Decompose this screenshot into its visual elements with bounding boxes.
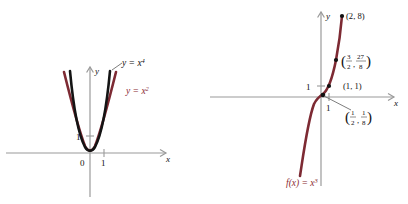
right-x-axis-label: x: [393, 98, 398, 108]
left-origin-label: 0: [80, 158, 85, 168]
figure-right-cubic-function: y x 1 1 (2, 8) (1, 1) ( 3 2 , 27 8 ) ( 1…: [204, 0, 408, 204]
left-leader-line-x4: [112, 63, 122, 70]
point-marker-1-1: [327, 84, 331, 88]
left-x-axis: [6, 150, 166, 157]
right-caption-exponent: 3: [314, 177, 319, 184]
left-label-x2-text: y = x: [125, 86, 146, 96]
right-caption: f(x) = x3: [286, 177, 319, 190]
left-y-axis: [87, 67, 94, 197]
right-y-tick-label-1: 1: [306, 82, 311, 92]
frac2-y-den-8: 8: [362, 119, 366, 127]
left-y-axis-label: y: [94, 66, 99, 76]
svg-text:f(x) = x3: f(x) = x3: [286, 177, 319, 190]
point-label-1-1: (1, 1): [343, 81, 362, 91]
point-marker-2-8: [340, 14, 344, 18]
svg-text:,: ,: [357, 115, 359, 125]
frac2-y-num-1: 1: [362, 109, 366, 117]
frac-x-den-2: 2: [347, 63, 351, 71]
svg-text:(: (: [341, 53, 346, 70]
left-x-tick-label-1: 1: [101, 158, 106, 168]
right-chart-svg: y x 1 1 (2, 8) (1, 1) ( 3 2 , 27 8 ) ( 1…: [204, 0, 408, 204]
right-y-axis-label: y: [325, 11, 330, 21]
svg-text:,: ,: [353, 59, 355, 69]
svg-text:y = x4: y = x4: [121, 57, 146, 69]
left-label-x4-exponent: 4: [142, 57, 146, 64]
frac2-x-den-2: 2: [351, 119, 355, 127]
left-chart-svg: y x 1 0 1 y = x4 y = x2: [0, 0, 204, 204]
svg-text:(: (: [345, 109, 350, 126]
point-marker-3-2-27-8: [334, 58, 338, 62]
left-series-label-x2: y = x2: [125, 85, 150, 97]
svg-text:): ): [366, 53, 371, 70]
point-label-1-2-1-8: ( 1 2 , 1 8 ): [345, 109, 372, 127]
svg-text:): ): [367, 109, 372, 126]
left-series-label-x4: y = x4: [121, 57, 146, 69]
point-label-2-8: (2, 8): [346, 11, 365, 21]
right-caption-text: f(x) = x: [286, 178, 315, 189]
right-x-tick-label-1: 1: [326, 103, 331, 113]
right-x-axis: [210, 94, 394, 101]
left-y-tick-label-1: 1: [76, 132, 81, 142]
svg-text:y = x2: y = x2: [125, 85, 150, 97]
left-label-x4-text: y = x: [121, 58, 142, 68]
figure-left-power-functions: y x 1 0 1 y = x4 y = x2: [0, 0, 204, 204]
frac-y-num-27: 27: [357, 53, 365, 61]
left-x-axis-label: x: [165, 154, 170, 164]
frac-x-num-3: 3: [347, 53, 351, 61]
left-label-x2-exponent: 2: [146, 85, 150, 92]
frac-y-den-8: 8: [359, 63, 363, 71]
frac2-x-num-1: 1: [351, 109, 355, 117]
point-label-3-2-27-8: ( 3 2 , 27 8 ): [341, 53, 371, 71]
